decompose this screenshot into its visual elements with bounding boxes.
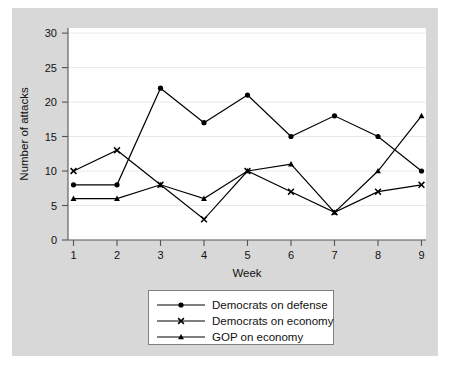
x-tick-marks: [74, 240, 422, 246]
y-tick-label-10: 10: [45, 165, 57, 177]
x-tick-label-7: 7: [331, 249, 337, 261]
data-point: [158, 86, 163, 91]
y-tick-marks: [62, 33, 68, 240]
x-tick-label-3: 3: [157, 249, 163, 261]
y-tick-label-15: 15: [45, 131, 57, 143]
data-point: [375, 134, 380, 139]
y-tick-label-20: 20: [45, 96, 57, 108]
x-tick-label-6: 6: [288, 249, 294, 261]
y-tick-label-0: 0: [51, 234, 57, 246]
x-tick-label-2: 2: [114, 249, 120, 261]
legend-label: GOP on economy: [212, 331, 303, 343]
legend: Democrats on defenseDemocrats on economy…: [149, 291, 334, 345]
legend-label: Democrats on economy: [212, 315, 334, 327]
y-tick-label-5: 5: [51, 200, 57, 212]
x-axis-title: Week: [232, 267, 261, 279]
line-chart: 30 25 20 15 10 5 0 Number of attacks 1 2…: [0, 0, 454, 371]
y-axis-title: Number of attacks: [18, 87, 30, 181]
legend-swatch-marker: [178, 302, 183, 307]
x-tick-label-5: 5: [244, 249, 250, 261]
x-tick-label-4: 4: [201, 249, 207, 261]
x-tick-label-1: 1: [70, 249, 76, 261]
data-point: [245, 93, 250, 98]
data-point: [71, 182, 76, 187]
data-point: [419, 168, 424, 173]
y-tick-label-30: 30: [45, 27, 57, 39]
data-point: [332, 113, 337, 118]
data-point: [288, 134, 293, 139]
chart-screenshot: 30 25 20 15 10 5 0 Number of attacks 1 2…: [0, 0, 454, 371]
x-tick-label-9: 9: [418, 249, 424, 261]
y-tick-label-25: 25: [45, 62, 57, 74]
data-point: [201, 120, 206, 125]
data-point: [114, 182, 119, 187]
x-tick-label-8: 8: [375, 249, 381, 261]
legend-label: Democrats on defense: [212, 299, 328, 311]
